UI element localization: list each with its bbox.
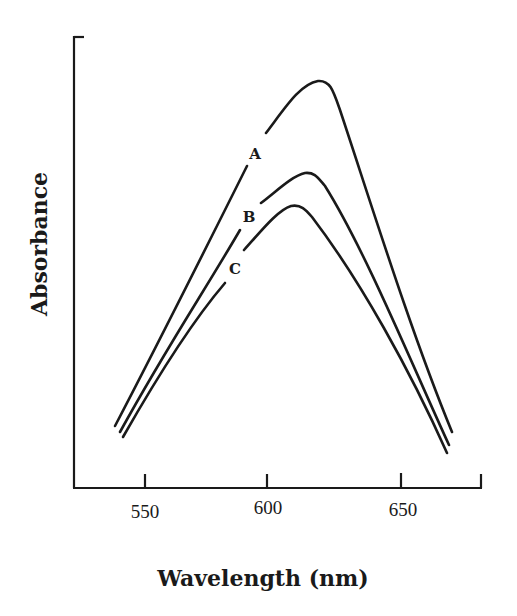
x-tick-label-650: 650 (389, 499, 418, 520)
x-axis-title: Wavelength (nm) (156, 565, 368, 591)
y-axis-title: Absorbance (26, 172, 52, 317)
curve-c-lower (123, 283, 225, 437)
curve-c-upper (244, 206, 447, 453)
curves (115, 81, 452, 453)
curve-b-lower (120, 230, 240, 432)
x-tick-label-600: 600 (254, 497, 283, 518)
curve-label-c: C (229, 260, 241, 278)
curve-b-upper (261, 173, 449, 445)
curve-label-a: A (248, 145, 261, 163)
curve-label-b: B (243, 208, 256, 226)
curve-a-upper (266, 81, 452, 432)
curve-a-lower (115, 166, 247, 426)
chart: 550 600 650 Wavelength (nm) Absorbance A… (0, 0, 517, 616)
absorbance-spectrum-plot: 550 600 650 Wavelength (nm) Absorbance A… (0, 0, 517, 616)
axes (73, 36, 482, 488)
x-tick-label-550: 550 (131, 501, 160, 522)
